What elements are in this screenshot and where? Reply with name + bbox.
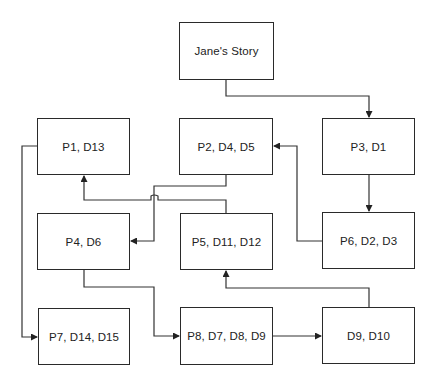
edge-p1-to-p7 — [22, 146, 37, 337]
node-p6-d2-d3: P6, D2, D3 — [322, 212, 415, 269]
node-label: P4, D6 — [66, 236, 102, 248]
node-label: P3, D1 — [351, 141, 387, 153]
edge-p5-to-p1 — [84, 176, 226, 213]
node-p3-d1: P3, D1 — [322, 118, 415, 175]
flowchart-canvas: Jane's Story P1, D13 P2, D4, D5 P3, D1 P… — [0, 0, 435, 385]
node-label: P2, D4, D5 — [197, 141, 254, 153]
node-p4-d6: P4, D6 — [37, 213, 130, 270]
node-p1-d13: P1, D13 — [37, 118, 130, 175]
edge-p6-to-p2 — [274, 146, 322, 241]
node-label: P6, D2, D3 — [340, 235, 397, 247]
node-janes-story: Jane's Story — [179, 22, 274, 80]
node-p5-d11-d12: P5, D11, D12 — [180, 213, 273, 270]
node-label: D9, D10 — [347, 330, 390, 342]
node-p8-d7-d8-d9: P8, D7, D8, D9 — [180, 307, 273, 365]
node-label: P1, D13 — [62, 141, 104, 153]
node-p2-d4-d5: P2, D4, D5 — [179, 118, 273, 175]
node-label: P8, D7, D8, D9 — [187, 330, 266, 342]
node-label: Jane's Story — [194, 45, 258, 57]
node-label: P5, D11, D12 — [192, 236, 261, 248]
edge-d9-to-p5 — [226, 271, 369, 307]
edge-story-to-p3 — [226, 80, 369, 117]
node-d9-d10: D9, D10 — [322, 307, 415, 364]
node-p7-d14-d15: P7, D14, D15 — [38, 308, 130, 365]
node-label: P7, D14, D15 — [49, 331, 119, 343]
